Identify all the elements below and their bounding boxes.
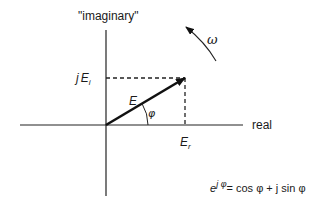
angle-label: φ — [148, 108, 155, 119]
real-component-label: Er — [180, 136, 191, 148]
phasor-diagram — [0, 0, 329, 210]
euler-equation: ej φ= cos φ + j sin φ — [210, 183, 306, 194]
omega-label: ω — [207, 33, 218, 46]
imaginary-axis-label: "imaginary" — [78, 10, 139, 22]
phasor-arrow — [106, 78, 185, 125]
real-axis-label: real — [252, 119, 272, 131]
imag-component-label: jEi — [76, 72, 90, 84]
magnitude-label: E — [129, 95, 137, 107]
